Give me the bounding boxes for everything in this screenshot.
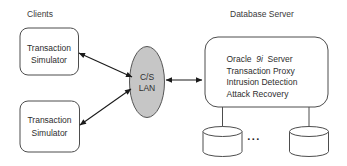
client-box-1-label-line1: Transaction <box>27 43 71 53</box>
arrow-client1-lan <box>79 53 132 77</box>
cylinder-top <box>290 127 329 137</box>
database-cylinder-right <box>290 127 329 157</box>
oracle-prefix: Oracle <box>227 54 252 64</box>
database-cylinder-left <box>203 127 242 157</box>
database-server-heading: Database Server <box>230 9 294 19</box>
lan-label-line2: LAN <box>139 83 156 93</box>
server-feature-oracle: Oracle 9i Server <box>227 54 293 64</box>
server-feature-recovery: Attack Recovery <box>227 89 290 99</box>
arrow-client2-lan <box>80 89 131 125</box>
architecture-diagram: Clients Database Server Transaction Simu… <box>0 0 347 166</box>
client-box-2-label-line2: Simulator <box>32 128 68 138</box>
ellipsis-label: ... <box>247 130 261 142</box>
client-box-2 <box>20 101 80 152</box>
lan-label-line1: C/S <box>140 72 155 82</box>
client-box-2-label-line1: Transaction <box>27 115 71 125</box>
server-feature-intrusion: Intrusion Detection <box>227 77 298 87</box>
oracle-version: 9i <box>256 54 264 64</box>
diagram-canvas: Clients Database Server Transaction Simu… <box>0 0 347 166</box>
oracle-suffix: Server <box>268 54 293 64</box>
client-box-1-label-line2: Simulator <box>31 55 67 65</box>
clients-heading: Clients <box>27 9 53 19</box>
lan-ellipse <box>130 47 165 118</box>
cylinder-top <box>203 127 242 137</box>
server-feature-proxy: Transaction Proxy <box>227 66 296 76</box>
